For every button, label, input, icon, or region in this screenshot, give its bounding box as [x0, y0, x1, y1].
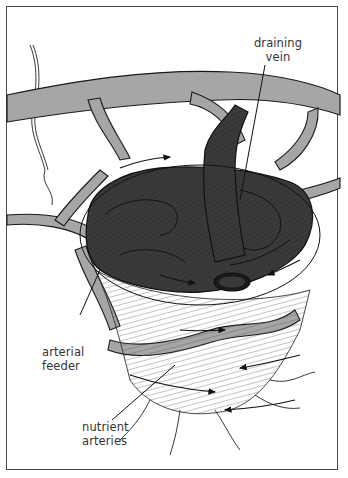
avm-illustration — [0, 0, 348, 478]
label-draining-vein: draining vein — [248, 36, 308, 64]
label-nutrient-arteries: nutrient arteries — [82, 420, 142, 448]
label-line: nutrient — [82, 420, 142, 434]
label-line: draining — [248, 36, 308, 50]
label-line: vein — [248, 50, 308, 64]
superficial-vein — [7, 71, 340, 122]
avm-nidus — [86, 167, 312, 292]
label-arterial-feeder: arterial feeder — [42, 345, 98, 373]
label-line: arteries — [82, 434, 142, 448]
label-line: feeder — [42, 359, 98, 373]
label-line: arterial — [42, 345, 98, 359]
thin-vessel — [30, 45, 52, 205]
